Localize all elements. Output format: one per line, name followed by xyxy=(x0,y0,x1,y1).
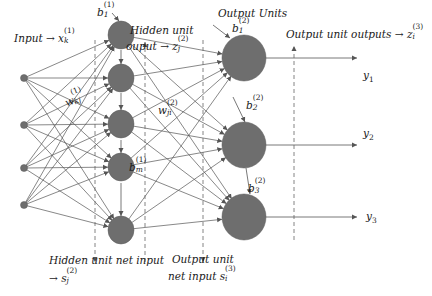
output-node xyxy=(222,35,266,81)
y2-label: y2 xyxy=(363,127,374,144)
hidden-node xyxy=(108,110,134,138)
input-node xyxy=(21,202,28,209)
output-units-label: Output Units xyxy=(218,7,287,19)
bias-out-1-label: b(2)1 xyxy=(232,20,251,34)
input-to-hidden-edges xyxy=(24,40,115,226)
hidden-node xyxy=(108,64,134,92)
bias-out-3-label: b(2)3 xyxy=(248,180,267,194)
bias-hidden-m-label: b(1)m xyxy=(129,159,148,173)
hidden-node xyxy=(108,216,134,244)
output-layer-nodes xyxy=(222,35,266,240)
input-node xyxy=(21,165,28,172)
bias-out-2-label: b(2)2 xyxy=(246,97,265,111)
y1-label: y1 xyxy=(363,69,374,86)
weight-ji-label: w(2)ji xyxy=(158,102,179,116)
output-lines xyxy=(266,58,357,217)
output-unit-outputs-label: Output unit outputs → z(3)i xyxy=(286,26,424,40)
hidden-net-input-label-line2: → s(2)j xyxy=(49,270,79,284)
input-node xyxy=(21,122,28,129)
bias-hidden-1-label: b(1)1 xyxy=(97,4,116,18)
output-node xyxy=(222,194,266,240)
input-node xyxy=(21,75,28,82)
hidden-unit-output-label-line2: ouput → z(2)j xyxy=(126,38,190,52)
input-label: Input → x(1)k xyxy=(14,30,76,44)
y3-label: y3 xyxy=(366,210,377,227)
output-net-input-label-line2: net input s(3)i xyxy=(168,268,237,282)
input-layer-nodes xyxy=(21,75,28,209)
output-node xyxy=(222,122,266,168)
hidden-to-output-edges xyxy=(121,35,232,230)
